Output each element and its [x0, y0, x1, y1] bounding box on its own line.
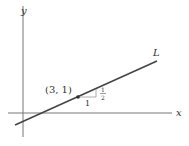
- point-label: (3, 1): [45, 84, 72, 95]
- rise-numerator: 1: [101, 86, 105, 93]
- point-marker: [76, 95, 80, 99]
- slope-diagram: y x L (3, 1) 1 1 2: [0, 0, 189, 146]
- line-label: L: [152, 47, 160, 58]
- line-L: [15, 61, 157, 125]
- x-axis-label: x: [176, 107, 182, 118]
- run-label: 1: [85, 99, 90, 108]
- y-axis-label: y: [20, 5, 27, 16]
- rise-denominator: 2: [101, 94, 105, 101]
